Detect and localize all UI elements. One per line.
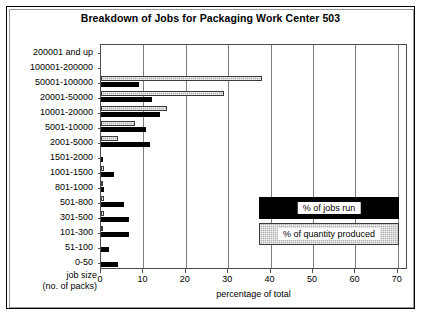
bar-jobs-run bbox=[101, 82, 139, 87]
y-axis-labels: 200001 and up100001-20000050001-10000020… bbox=[10, 44, 97, 269]
bar-jobs-run bbox=[101, 202, 124, 207]
bar-quantity-produced bbox=[101, 76, 262, 81]
legend-item-jobs-run: % of jobs run bbox=[259, 197, 399, 219]
chart-legend: % of jobs run % of quantity produced bbox=[259, 197, 399, 249]
y-axis-label: 200001 and up bbox=[33, 47, 93, 57]
legend-label-quantity-produced: % of quantity produced bbox=[278, 228, 380, 240]
chart-screenshot: Breakdown of Jobs for Packaging Work Cen… bbox=[0, 0, 423, 319]
bar-jobs-run bbox=[101, 217, 129, 222]
bar-quantity-produced bbox=[101, 166, 104, 171]
bar-quantity-produced bbox=[101, 106, 167, 111]
x-axis-tick bbox=[227, 269, 228, 273]
bar-jobs-run bbox=[101, 247, 109, 252]
y-axis-tick bbox=[98, 53, 101, 54]
bar-jobs-run bbox=[101, 97, 152, 102]
page-title: Breakdown of Jobs for Packaging Work Cen… bbox=[6, 12, 415, 24]
y-axis-label: 10001-20000 bbox=[40, 107, 93, 117]
y-axis-label: 50001-100000 bbox=[35, 77, 93, 87]
y-axis-label: 101-300 bbox=[60, 227, 93, 237]
bar-quantity-produced bbox=[101, 121, 135, 126]
bar-jobs-run bbox=[101, 262, 118, 267]
y-axis-label: 301-500 bbox=[60, 212, 93, 222]
y-axis-label: 2001-5000 bbox=[50, 137, 93, 147]
bar-row bbox=[101, 180, 406, 195]
bar-row bbox=[101, 255, 406, 270]
y-axis-label: 801-1000 bbox=[55, 182, 93, 192]
bar-row bbox=[101, 60, 406, 75]
bar-row bbox=[101, 135, 406, 150]
x-axis-tick-label: 70 bbox=[392, 274, 402, 284]
bar-row bbox=[101, 75, 406, 90]
x-axis-tick-label: 30 bbox=[222, 274, 232, 284]
y-axis-tick bbox=[98, 68, 101, 69]
y-axis-label: 501-800 bbox=[60, 197, 93, 207]
x-axis-tick bbox=[312, 269, 313, 273]
y-axis-label: 100001-200000 bbox=[30, 62, 93, 72]
bar-row bbox=[101, 120, 406, 135]
y-axis-label: 20001-50000 bbox=[40, 92, 93, 102]
y-axis-label: 1001-1500 bbox=[50, 167, 93, 177]
x-axis-tick-label: 60 bbox=[349, 274, 359, 284]
bar-jobs-run bbox=[101, 232, 129, 237]
y-axis-title: job size (no. of packs) bbox=[10, 270, 97, 292]
x-axis-tick bbox=[142, 269, 143, 273]
bar-jobs-run bbox=[101, 127, 146, 132]
bar-jobs-run bbox=[101, 112, 160, 117]
x-axis-tick-label: 50 bbox=[307, 274, 317, 284]
x-axis-title: percentage of total bbox=[100, 289, 407, 299]
legend-label-jobs-run: % of jobs run bbox=[298, 202, 361, 214]
bar-row bbox=[101, 90, 406, 105]
bar-quantity-produced bbox=[101, 181, 103, 186]
bar-row bbox=[101, 150, 406, 165]
x-axis-tick-label: 20 bbox=[180, 274, 190, 284]
legend-item-quantity-produced: % of quantity produced bbox=[259, 223, 399, 245]
x-axis-tick-label: 40 bbox=[265, 274, 275, 284]
y-axis-label: 51-100 bbox=[65, 242, 93, 252]
y-axis-title-line-1: job size bbox=[10, 270, 97, 281]
x-axis-tick bbox=[100, 269, 101, 273]
bar-jobs-run bbox=[101, 142, 150, 147]
bar-quantity-produced bbox=[101, 136, 118, 141]
x-axis-tick bbox=[354, 269, 355, 273]
x-axis-tick bbox=[397, 269, 398, 273]
y-axis-label: 0-50 bbox=[75, 257, 93, 267]
bar-row bbox=[101, 45, 406, 60]
x-axis-tick bbox=[185, 269, 186, 273]
y-axis-label: 5001-10000 bbox=[45, 122, 93, 132]
bar-row bbox=[101, 105, 406, 120]
y-axis-title-line-2: (no. of packs) bbox=[10, 281, 97, 292]
y-axis-label: 1501-2000 bbox=[50, 152, 93, 162]
bar-row bbox=[101, 165, 406, 180]
x-axis-tick-label: 10 bbox=[137, 274, 147, 284]
bar-quantity-produced bbox=[101, 226, 103, 231]
x-axis-tick bbox=[270, 269, 271, 273]
bar-jobs-run bbox=[101, 157, 103, 162]
x-axis-labels: 010203040506070 bbox=[100, 274, 407, 287]
bar-jobs-run bbox=[101, 187, 104, 192]
x-axis-tick-label: 0 bbox=[97, 274, 102, 284]
bar-jobs-run bbox=[101, 172, 114, 177]
bar-quantity-produced bbox=[101, 91, 224, 96]
bar-quantity-produced bbox=[101, 211, 104, 216]
bar-quantity-produced bbox=[101, 196, 104, 201]
